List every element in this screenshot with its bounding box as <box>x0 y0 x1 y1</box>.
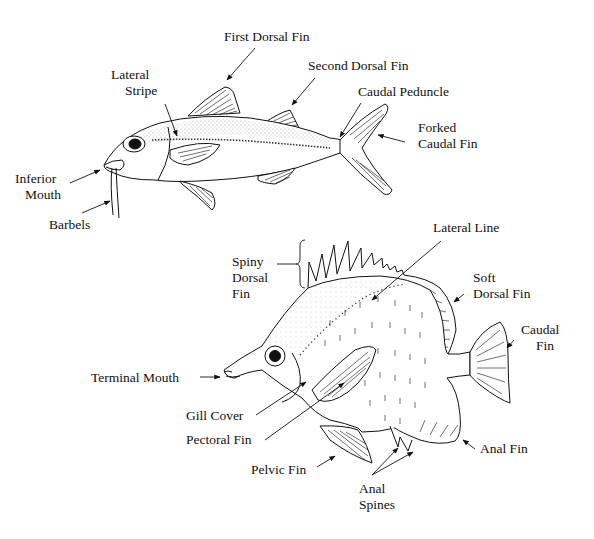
label-anal-fin: Anal Fin <box>480 441 528 456</box>
label-soft-dorsal-fin-line1: Soft <box>473 270 496 285</box>
fish-illustrations <box>0 0 594 539</box>
forked-caudal-fin-shape <box>340 104 392 195</box>
label-anal-spines-line2: Spines <box>359 497 395 512</box>
label-lateral-line: Lateral Line <box>433 220 499 235</box>
label-inferior-mouth-line2: Mouth <box>25 187 61 202</box>
label-first-dorsal-fin: First Dorsal Fin <box>224 29 310 44</box>
label-anal-spines-line1: Anal <box>359 481 385 496</box>
label-forked-caudal-fin-line2: Caudal Fin <box>418 136 478 151</box>
label-gill-cover: Gill Cover <box>186 408 243 423</box>
top-pelvic-fin-shape <box>180 181 215 210</box>
label-lateral-stripe-line1: Lateral <box>111 67 149 82</box>
top-fish <box>104 87 392 218</box>
label-second-dorsal-fin: Second Dorsal Fin <box>308 58 409 73</box>
label-inferior-mouth-line1: Inferior <box>15 171 56 186</box>
label-caudal-fin-line1: Caudal <box>521 322 559 337</box>
label-lateral-stripe-line2: Stripe <box>125 83 157 98</box>
label-terminal-mouth: Terminal Mouth <box>91 370 179 385</box>
spiny-dorsal-brace <box>296 240 305 288</box>
label-spiny-dorsal-fin-line3: Fin <box>232 286 250 301</box>
label-barbels: Barbels <box>49 217 90 232</box>
label-soft-dorsal-fin-line2: Dorsal Fin <box>473 286 530 301</box>
label-spiny-dorsal-fin-line2: Dorsal <box>232 270 268 285</box>
first-dorsal-fin-shape <box>188 87 240 116</box>
bottom-caudal-fin-shape <box>470 322 510 403</box>
fish-anatomy-diagram: First Dorsal Fin Second Dorsal Fin Later… <box>0 0 594 539</box>
label-caudal-peduncle: Caudal Peduncle <box>358 84 449 99</box>
label-pelvic-fin: Pelvic Fin <box>251 462 306 477</box>
label-pectoral-fin: Pectoral Fin <box>186 432 252 447</box>
label-spiny-dorsal-fin-line1: Spiny <box>232 254 264 269</box>
label-forked-caudal-fin-line1: Forked <box>418 120 456 135</box>
label-caudal-fin-line2: Fin <box>536 338 554 353</box>
